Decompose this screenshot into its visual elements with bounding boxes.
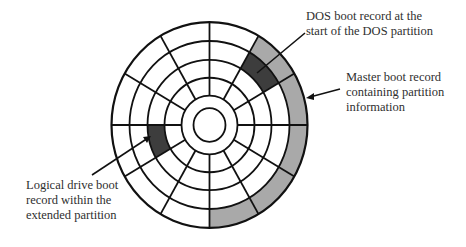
label-line: Logical drive boot xyxy=(26,178,118,193)
label-line: record within the xyxy=(26,193,118,208)
label-line: containing partition xyxy=(346,85,444,100)
label-line: Master boot record xyxy=(346,70,444,85)
mbr-arrow xyxy=(310,89,340,97)
dos-boot-record-label: DOS boot record at the start of the DOS … xyxy=(306,9,433,39)
label-line: DOS boot record at the xyxy=(306,9,433,24)
logical-drive-boot-label: Logical drive boot record within the ext… xyxy=(26,178,118,223)
master-boot-record-label: Master boot record containing partition … xyxy=(346,70,444,115)
label-line: start of the DOS partition xyxy=(306,24,433,39)
ring-circle xyxy=(194,108,226,142)
label-line: information xyxy=(346,100,444,115)
ring-circle xyxy=(182,96,238,155)
label-line: extended partition xyxy=(26,208,118,223)
mbr-arrowhead-icon xyxy=(306,93,314,100)
